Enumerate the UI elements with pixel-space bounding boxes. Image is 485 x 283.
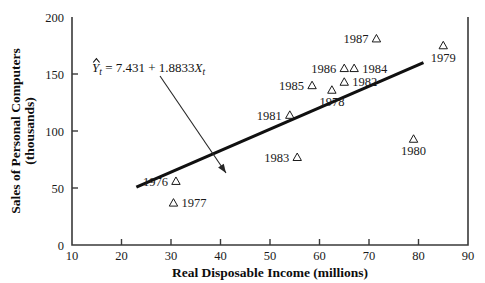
data-label-1978: 1978 — [319, 95, 344, 109]
x-tick-label-80: 80 — [412, 249, 425, 263]
x-tick-label-40: 40 — [214, 249, 227, 263]
data-marker-1985 — [308, 81, 316, 88]
data-point-labels: 1976197719781979198019811982198319841985… — [143, 32, 456, 210]
data-label-1987: 1987 — [343, 32, 368, 46]
y-tick-label-200: 200 — [45, 11, 64, 25]
x-axis-ticks — [122, 239, 419, 245]
y-axis-ticks — [72, 74, 78, 188]
data-point-markers — [169, 34, 447, 206]
x-tick-label-90: 90 — [462, 249, 475, 263]
data-label-1984: 1984 — [362, 62, 388, 76]
data-label-1977: 1977 — [181, 196, 206, 210]
y-axis-tick-labels: 050100150200 — [45, 11, 64, 253]
x-tick-label-10: 10 — [66, 249, 79, 263]
x-axis-title: Real Disposable Income (millions) — [172, 265, 368, 280]
data-marker-1980 — [409, 135, 417, 142]
chart-figure: 102030405060708090 050100150200 19761977… — [0, 0, 485, 283]
equation-leader-line — [160, 76, 226, 173]
data-marker-1977 — [169, 199, 177, 206]
data-marker-1982 — [340, 78, 348, 85]
data-label-1979: 1979 — [431, 51, 456, 65]
data-label-1982: 1982 — [352, 75, 377, 89]
data-label-1983: 1983 — [264, 151, 289, 165]
y-tick-label-0: 0 — [58, 239, 64, 253]
regression-equation-text: Yt = 7.431 + 1.8833Xt — [92, 60, 206, 77]
data-label-1976: 1976 — [143, 175, 168, 189]
y-tick-label-100: 100 — [45, 125, 64, 139]
data-label-1981: 1981 — [257, 109, 282, 123]
x-tick-label-50: 50 — [264, 249, 277, 263]
data-label-1986: 1986 — [311, 62, 336, 76]
x-tick-label-30: 30 — [165, 249, 178, 263]
data-marker-1986 — [340, 64, 348, 71]
x-tick-label-20: 20 — [115, 249, 128, 263]
data-label-1980: 1980 — [401, 144, 426, 158]
data-marker-1987 — [372, 34, 380, 41]
y-axis-title-line1: Sales of Personal Computers — [8, 48, 23, 213]
data-marker-1984 — [350, 64, 358, 71]
equation-arrowhead — [218, 164, 226, 173]
data-marker-1983 — [293, 153, 301, 160]
scatter-plot-svg: 102030405060708090 050100150200 19761977… — [0, 0, 485, 283]
y-axis-title-line2: (thousands) — [22, 97, 37, 165]
data-marker-1978 — [328, 86, 336, 93]
plot-frame — [72, 17, 468, 245]
y-tick-label-50: 50 — [52, 182, 65, 196]
x-tick-label-60: 60 — [313, 249, 326, 263]
x-axis-tick-labels: 102030405060708090 — [66, 249, 475, 263]
data-marker-1979 — [439, 41, 447, 48]
data-marker-1976 — [172, 177, 180, 184]
data-marker-1981 — [286, 111, 294, 118]
y-tick-label-150: 150 — [45, 68, 64, 82]
x-tick-label-70: 70 — [363, 249, 376, 263]
data-label-1985: 1985 — [279, 79, 304, 93]
